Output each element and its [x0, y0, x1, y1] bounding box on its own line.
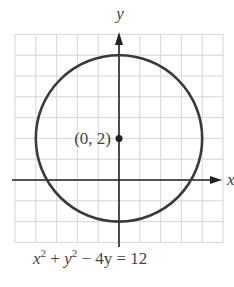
x-axis-label: x: [226, 170, 234, 189]
x-axis-arrow-icon: [210, 176, 222, 184]
center-point: [116, 135, 123, 142]
caption-y: y: [62, 249, 72, 268]
caption-plus: +: [46, 249, 64, 268]
center-point-label: (0, 2): [74, 129, 111, 148]
chart: (0, 2) x y x2 + y2 − 4y = 12: [0, 0, 234, 287]
equation-caption: x2 + y2 − 4y = 12: [32, 247, 147, 268]
caption-rest: − 4y = 12: [77, 249, 147, 268]
y-axis-label: y: [114, 4, 124, 23]
